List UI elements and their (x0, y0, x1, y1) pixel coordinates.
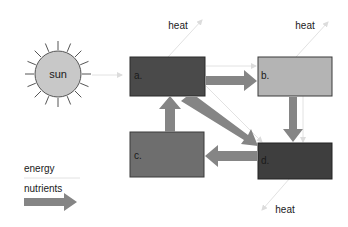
box-d-label: d. (261, 155, 269, 166)
sun-ray (45, 96, 48, 104)
sun: sun (25, 41, 91, 107)
box-c-label: c. (134, 150, 142, 161)
sun-ray (35, 51, 41, 57)
energy-flows (24, 20, 328, 210)
nutrient-arrow-b-to-d (283, 97, 303, 142)
sun-ray (67, 96, 70, 104)
box-c: c. (130, 132, 204, 177)
sun-label: sun (49, 68, 67, 80)
box-b-label: b. (261, 70, 269, 81)
sun-ray (67, 44, 70, 52)
heat-label-b: heat (295, 20, 315, 31)
legend-energy-label: energy (24, 163, 55, 174)
sun-ray (75, 91, 81, 97)
sun-ray (75, 51, 81, 57)
sun-ray (28, 61, 36, 64)
nutrient-cycle-diagram: sun a. b. c. d. heat heat heat energy nu… (0, 0, 348, 227)
box-a: a. (130, 57, 205, 96)
sun-ray (80, 61, 88, 64)
box-b: b. (258, 57, 332, 96)
heat-label-a: heat (168, 20, 188, 31)
box-d: d. (258, 143, 332, 179)
legend-nutrients-arrow (24, 193, 77, 211)
sun-ray (45, 44, 48, 52)
legend: energy nutrients (24, 163, 77, 211)
nutrient-arrow-d-to-c (205, 145, 257, 167)
box-a-label: a. (134, 70, 142, 81)
sun-ray (35, 91, 41, 97)
nutrient-arrow-c-to-a (159, 96, 181, 132)
legend-nutrients-label: nutrients (24, 183, 62, 194)
nutrient-arrow-a-to-b (206, 70, 257, 91)
sun-ray (80, 83, 88, 86)
heat-label-d: heat (275, 204, 295, 215)
sun-ray (28, 83, 36, 86)
